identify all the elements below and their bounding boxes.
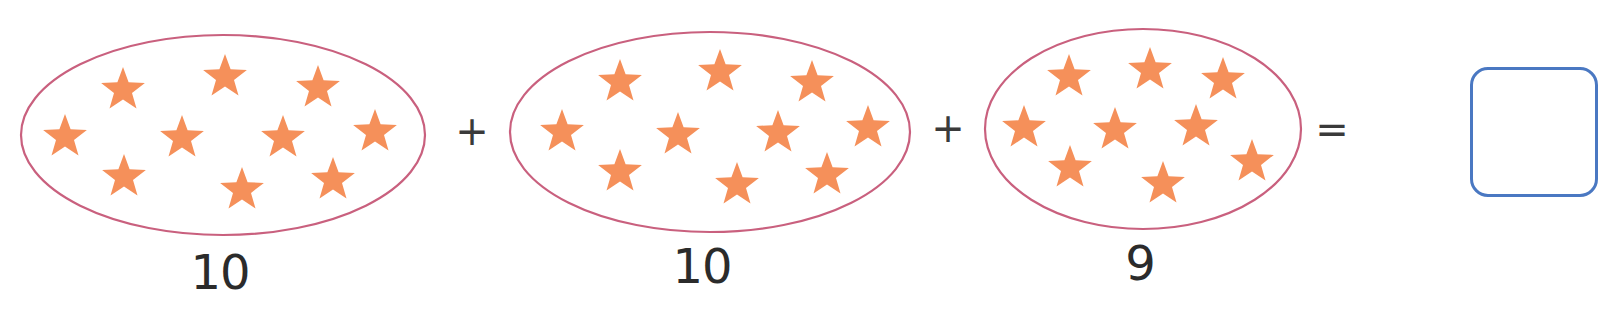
- star-icon: [1048, 145, 1092, 187]
- star-icon: [790, 60, 834, 102]
- equals-sign: =: [1315, 109, 1349, 149]
- star-icon: [203, 54, 247, 96]
- star-icon: [1128, 47, 1172, 89]
- star-icon: [1230, 139, 1274, 181]
- star-icon: [1141, 161, 1185, 203]
- star-group-2: [510, 32, 910, 232]
- star-icon: [540, 109, 584, 151]
- group-2-count-label: 10: [672, 242, 731, 290]
- plus-sign-2: +: [931, 108, 965, 148]
- star-icon: [598, 149, 642, 191]
- star-icon: [698, 49, 742, 91]
- star-icon: [1174, 104, 1218, 146]
- star-icon: [1002, 105, 1046, 147]
- star-icon: [102, 154, 146, 196]
- star-icon: [656, 112, 700, 154]
- star-icon: [1201, 57, 1245, 99]
- star-icon: [598, 59, 642, 101]
- star-icon: [220, 167, 264, 209]
- star-icon: [296, 65, 340, 107]
- star-icon: [756, 110, 800, 152]
- star-icon: [43, 114, 87, 156]
- group-3-count-label: 9: [1125, 239, 1155, 287]
- star-group-3: [985, 29, 1301, 229]
- star-icon: [311, 157, 355, 199]
- answer-box[interactable]: [1470, 67, 1598, 197]
- star-icon: [101, 67, 145, 109]
- star-icon: [1047, 54, 1091, 96]
- star-group-1: [21, 35, 425, 235]
- star-icon: [160, 115, 204, 157]
- star-icon: [1093, 107, 1137, 149]
- star-icon: [846, 105, 890, 147]
- star-icon: [715, 162, 759, 204]
- star-icon: [353, 109, 397, 151]
- plus-sign-1: +: [455, 111, 489, 151]
- star-icon: [261, 115, 305, 157]
- group-1-count-label: 10: [190, 248, 249, 296]
- star-icon: [805, 152, 849, 194]
- addition-worksheet: 10 10 9 + + =: [0, 0, 1610, 309]
